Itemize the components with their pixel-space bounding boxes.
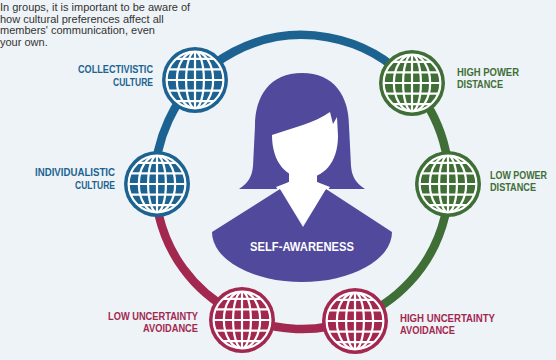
globe-icon [162, 47, 228, 113]
self-awareness-diagram: In groups, it is important to be aware o… [0, 0, 556, 360]
intro-line: In groups, it is important to be aware o… [0, 1, 191, 13]
center-label: SELF-AWARENESS [250, 239, 354, 254]
globe-icon [322, 288, 388, 354]
label-line: CULTURE [75, 179, 115, 191]
label-line: CULTURE [113, 76, 153, 88]
label-line: LOW POWER [490, 169, 547, 181]
label-line: COLLECTIVISTIC [78, 63, 153, 75]
label-line: HIGH POWER [457, 66, 519, 78]
label-line: INDIVIDUALISTIC [35, 166, 115, 178]
label-line: DISTANCE [457, 78, 503, 90]
label-line: HIGH UNCERTAINTY [400, 312, 495, 324]
globe-icon [379, 50, 445, 116]
intro-line: your own. [0, 36, 48, 48]
intro-line: how cultural preferences affect all [0, 13, 164, 25]
globe-icon [209, 287, 275, 353]
label-line: DISTANCE [490, 181, 536, 193]
label-line: AVOIDANCE [400, 324, 455, 336]
intro-line: members' communication, even [0, 24, 155, 36]
globe-icon [124, 151, 190, 217]
label-line: AVOIDANCE [143, 322, 198, 334]
globe-icon [415, 151, 481, 217]
label-line: LOW UNCERTAINTY [108, 310, 198, 322]
